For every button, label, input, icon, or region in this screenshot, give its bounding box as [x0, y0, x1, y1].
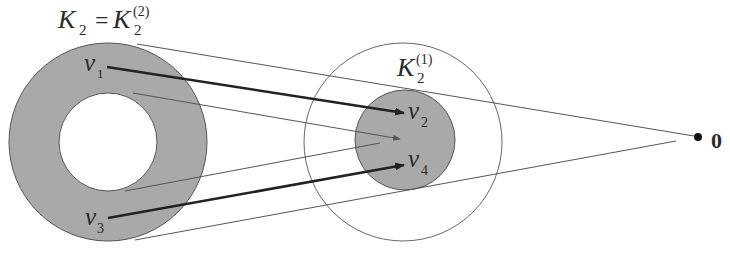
svg-text:v: v: [85, 203, 97, 230]
svg-text:4: 4: [421, 163, 428, 178]
origin-point: [694, 133, 702, 141]
origin-label: 0: [711, 128, 722, 153]
svg-text:2: 2: [421, 115, 428, 130]
svg-text:1: 1: [97, 66, 104, 81]
svg-text:v: v: [408, 97, 420, 124]
svg-text:=: =: [95, 7, 109, 33]
svg-text:v: v: [408, 145, 420, 172]
svg-text:(2): (2): [133, 4, 150, 20]
svg-text:K: K: [396, 53, 416, 82]
svg-text:2: 2: [79, 22, 87, 38]
svg-text:K: K: [112, 5, 132, 34]
label-k2-1: K 2 (1): [396, 52, 433, 86]
svg-text:K: K: [57, 5, 77, 34]
svg-text:(1): (1): [416, 52, 433, 68]
label-k2-equals-k2-2: K 2 = K 2 (2): [57, 4, 150, 38]
annulus-k2-2: [9, 43, 207, 241]
svg-text:2: 2: [134, 22, 142, 38]
svg-text:2: 2: [417, 70, 425, 86]
svg-text:v: v: [84, 49, 96, 76]
disk-k2-1: [355, 90, 455, 190]
svg-text:3: 3: [97, 221, 104, 236]
scaling-diagram: 0 K 2 = K 2 (2) K 2 (1) v 1 v 2 v 3 v 4: [0, 0, 730, 267]
